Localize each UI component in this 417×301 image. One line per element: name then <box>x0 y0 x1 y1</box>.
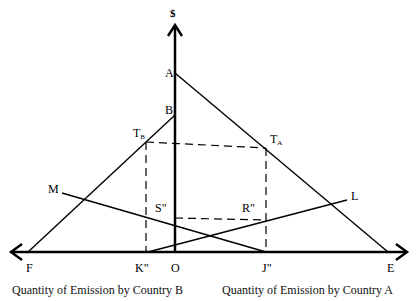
point-O-label: O <box>171 262 180 274</box>
point-R-label: R" <box>242 202 255 214</box>
line-AE <box>175 73 388 252</box>
point-J-label: J" <box>262 262 272 274</box>
point-B-label: B <box>165 104 173 116</box>
point-E-label: E <box>387 262 394 274</box>
point-S-label: S" <box>155 202 167 214</box>
point-M-label: M <box>48 183 59 195</box>
point-TB-label: TB <box>133 127 145 141</box>
point-TA-sub: A <box>277 139 282 147</box>
dashed-TB-TA <box>146 142 266 148</box>
dashed-S-R <box>175 218 266 220</box>
y-axis-label: $ <box>170 8 176 19</box>
caption-country-a: Quantity of Emission by Country A <box>222 283 393 298</box>
point-F-label: F <box>26 262 33 274</box>
point-L-label: L <box>351 190 358 202</box>
point-TB-sub: B <box>140 133 145 141</box>
point-A-label: A <box>165 67 174 79</box>
point-TA-label: TA <box>270 133 282 147</box>
point-K-label: K" <box>135 262 149 274</box>
diagram-canvas <box>0 0 417 301</box>
caption-country-b: Quantity of Emission by Country B <box>12 283 183 298</box>
